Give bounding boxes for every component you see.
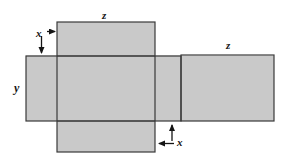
dimension-label-x-bottom-right: x [177, 137, 183, 148]
dimension-label-y-left: y [14, 82, 19, 94]
box-net-figure: z z y x x [0, 0, 292, 159]
panel-fills [26, 22, 274, 152]
dimension-label-z-right: z [226, 40, 230, 51]
dimension-label-z-top: z [102, 10, 106, 21]
fill-vertical-band [57, 22, 155, 152]
box-net-svg [0, 0, 292, 159]
dimension-label-x-top-left: x [36, 28, 42, 39]
